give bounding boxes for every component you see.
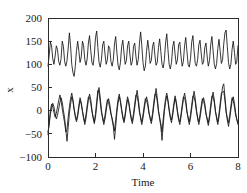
time-series-plot: −100−50050100150200 02468 Time x: [0, 0, 247, 193]
x-tick-label: 4: [140, 160, 146, 172]
y-axis-title: x: [3, 87, 15, 93]
chart-figure: −100−50050100150200 02468 Time x: [0, 0, 247, 193]
y-tick-label: −100: [19, 151, 42, 163]
x-tick-label: 2: [93, 160, 99, 172]
x-axis-title: Time: [132, 176, 155, 188]
y-tick-label: 0: [37, 104, 43, 116]
x-tick-label: 8: [235, 160, 241, 172]
y-tick-label: 200: [26, 12, 43, 24]
y-tick-label: 150: [26, 35, 43, 47]
y-tick-label: 50: [31, 81, 43, 93]
x-tick-label: 0: [45, 160, 51, 172]
plot-area-background: [48, 18, 238, 157]
y-tick-label: 100: [26, 58, 43, 70]
y-tick-label: −50: [25, 128, 43, 140]
x-tick-label: 6: [188, 160, 194, 172]
